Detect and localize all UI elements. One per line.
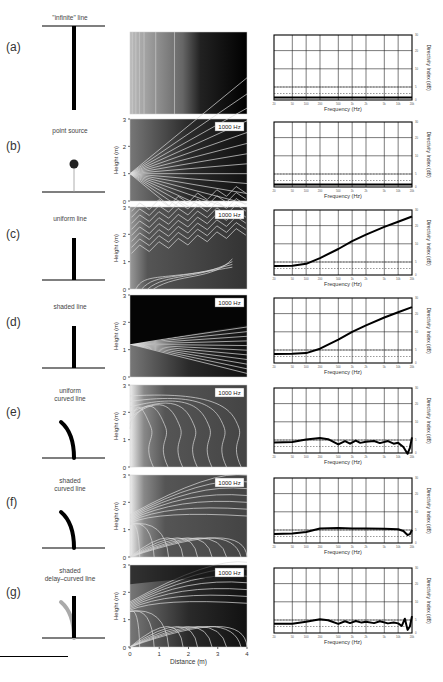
x-tick-label: 200: [318, 102, 323, 106]
x-tick-label: 5k: [383, 189, 387, 193]
frequency-badge-text: 1000 Hz: [218, 124, 240, 130]
source-sketch-infinite-line: [42, 26, 105, 110]
heatmap-field: [130, 207, 247, 289]
x-tick-label: 50: [291, 545, 295, 549]
point-source: [70, 160, 79, 169]
x-tick-label: 3: [216, 651, 220, 657]
y-tick-label: 0: [415, 631, 417, 635]
y-tick-label: 20: [415, 312, 419, 316]
x-tick-label: 5k: [383, 102, 387, 106]
x-tick-label: 20: [272, 545, 276, 549]
frequency-badge: 1000 Hz: [215, 298, 244, 307]
y-tick-label: 30: [415, 33, 419, 37]
directivity-curve: [274, 528, 412, 535]
x-tick-label: 100: [304, 365, 309, 369]
x-tick-label: 10k: [396, 365, 401, 369]
x-tick-label: 50: [291, 365, 295, 369]
frequency-badge-text: 1000 Hz: [218, 212, 240, 218]
x-tick-label: 200: [318, 635, 323, 639]
y-tick-label: 2: [123, 410, 127, 416]
y-axis-label: Directivity Index (dB): [426, 487, 432, 533]
y-tick-label: 20: [415, 136, 419, 140]
y-tick-label: 0: [415, 541, 417, 545]
sound-field-heatmap: 1000 Hz0123Height (m)01234Distance (m): [113, 562, 249, 666]
x-tick-label: 10k: [396, 189, 401, 193]
y-tick-label: 10: [415, 154, 419, 158]
y-tick-label: 30: [415, 386, 419, 390]
y-tick-label: 5: [415, 85, 417, 89]
y-tick-label: 20: [415, 402, 419, 406]
y-axis-label: Height (m): [113, 234, 119, 262]
heatmap-field: [130, 385, 247, 467]
y-tick-label: 30: [415, 296, 419, 300]
figure-row: 1000 Hz0123Height (m)20501002005001k2k5k…: [42, 473, 432, 561]
y-tick-label: 2: [123, 590, 127, 596]
x-tick-label: 10k: [396, 102, 401, 106]
frequency-badge-text: 1000 Hz: [218, 300, 240, 306]
figure-svg: 20501002005001k2k5k10k20kFrequency (Hz)0…: [0, 0, 443, 682]
heatmap-y-axis: 0123Height (m): [113, 473, 130, 561]
x-tick-label: 2: [187, 651, 191, 657]
x-tick-label: 50: [291, 635, 295, 639]
y-axis-label: Height (m): [113, 502, 119, 530]
y-tick-label: 5: [415, 528, 417, 532]
y-axis-label: Directivity Index (dB): [426, 219, 432, 265]
x-tick-label: 20: [272, 365, 276, 369]
source-sketch-curved: [42, 422, 105, 458]
x-tick-label: 20k: [410, 365, 415, 369]
y-tick-label: 30: [415, 208, 419, 212]
x-tick-label: 200: [318, 365, 323, 369]
y-tick-label: 0: [123, 645, 127, 651]
directivity-curve: [274, 616, 412, 630]
x-tick-label: 100: [304, 455, 309, 459]
x-tick-label: 20k: [410, 635, 415, 639]
x-tick-label: 20: [272, 455, 276, 459]
x-tick-label: 2k: [365, 635, 369, 639]
x-tick-label: 20: [272, 102, 276, 106]
y-tick-label: 0: [415, 273, 417, 277]
sound-field-heatmap: 1000 Hz0123Height (m): [113, 293, 247, 381]
y-tick-label: 3: [123, 383, 127, 389]
directivity-plot: 20501002005001k2k5k10k20kFrequency (Hz)0…: [272, 386, 432, 465]
y-tick-label: 10: [415, 600, 419, 604]
x-tick-label: 50: [291, 277, 295, 281]
source-sketch-curved: [42, 512, 105, 548]
x-tick-label: 50: [291, 102, 295, 106]
x-tick-label: 5k: [383, 545, 387, 549]
x-tick-label: 10k: [396, 455, 401, 459]
source-sketch-point: [42, 160, 105, 193]
x-tick-label: 2k: [365, 545, 369, 549]
x-tick-label: 100: [304, 102, 309, 106]
y-axis-label: Directivity Index (dB): [426, 397, 432, 443]
directivity-plot: 20501002005001k2k5k10k20kFrequency (Hz)0…: [272, 33, 432, 112]
x-tick-label: 10k: [396, 277, 401, 281]
x-tick-label: 20k: [410, 277, 415, 281]
x-tick-label: 10k: [396, 635, 401, 639]
x-tick-label: 1: [158, 651, 162, 657]
y-tick-label: 5: [415, 260, 417, 264]
x-tick-label: 2k: [365, 102, 369, 106]
y-tick-label: 3: [123, 563, 127, 569]
y-tick-label: 0: [415, 98, 417, 102]
y-axis-label: Height (m): [113, 412, 119, 440]
figure-row: 1000 Hz0123Height (m)20501002005001k2k5k…: [42, 293, 432, 381]
x-axis-label: Frequency (Hz): [324, 639, 362, 645]
directivity-curve: [274, 217, 412, 266]
x-tick-label: 100: [304, 635, 309, 639]
y-axis-label: Height (m): [113, 322, 119, 350]
y-tick-label: 0: [415, 185, 417, 189]
x-tick-label: 100: [304, 189, 309, 193]
y-tick-label: 2: [123, 232, 127, 238]
x-tick-label: 5k: [383, 455, 387, 459]
x-tick-label: 100: [304, 277, 309, 281]
sound-field-heatmap: [130, 32, 247, 114]
x-tick-label: 4: [245, 651, 249, 657]
y-axis-label: Directivity Index (dB): [426, 131, 432, 177]
x-tick-label: 200: [318, 189, 323, 193]
x-tick-label: 2k: [365, 365, 369, 369]
y-tick-label: 3: [123, 205, 127, 211]
x-axis-label: Frequency (Hz): [324, 369, 362, 375]
figure-row: 1000 Hz0123Height (m)20501002005001k2k5k…: [42, 383, 432, 471]
y-tick-label: 3: [123, 473, 127, 479]
sound-field-heatmap: 1000 Hz0123Height (m): [113, 473, 247, 561]
